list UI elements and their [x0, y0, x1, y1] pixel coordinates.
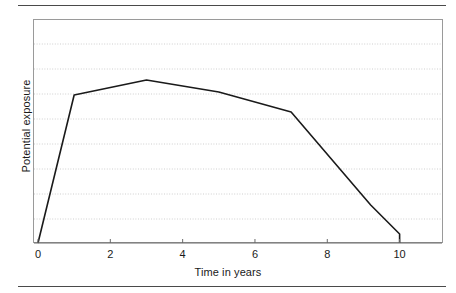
- y-axis-title: Potential exposure: [20, 56, 32, 196]
- bottom-divider-rule: [18, 286, 446, 287]
- x-axis-tick-label: 0: [18, 248, 58, 260]
- x-axis-tick-label: 4: [163, 248, 203, 260]
- x-axis-tick-label: 10: [380, 248, 420, 260]
- x-axis-title: Time in years: [0, 266, 456, 278]
- x-axis-tick-label: 6: [235, 248, 275, 260]
- x-axis-tick-label: 8: [307, 248, 347, 260]
- x-axis-tick-label: 2: [90, 248, 130, 260]
- chart-figure: 0246810 Potential exposure Time in years: [0, 0, 456, 293]
